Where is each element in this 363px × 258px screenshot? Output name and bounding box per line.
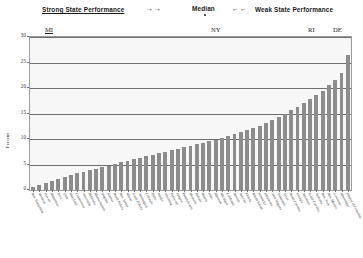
- bar[interactable]: [220, 138, 224, 190]
- bar[interactable]: [189, 146, 193, 190]
- bar[interactable]: [144, 156, 148, 190]
- bar[interactable]: [233, 134, 237, 190]
- y-axis: Percent 051015202530: [0, 30, 29, 200]
- bar[interactable]: [82, 172, 86, 190]
- y-tick-label-15: 15: [21, 110, 26, 115]
- bar[interactable]: [214, 140, 218, 190]
- bar[interactable]: [264, 123, 268, 190]
- bar[interactable]: [151, 155, 155, 190]
- y-tick-label-30: 30: [21, 33, 26, 38]
- bar[interactable]: [132, 159, 136, 190]
- bar[interactable]: [69, 175, 73, 190]
- y-tick-label-25: 25: [21, 59, 26, 64]
- bar[interactable]: [201, 143, 205, 190]
- left-arrows-icon: ←←: [232, 5, 248, 12]
- callout-mi: MI: [45, 26, 53, 33]
- bar[interactable]: [346, 55, 350, 190]
- bar[interactable]: [296, 107, 300, 190]
- bar[interactable]: [333, 80, 337, 190]
- x-axis-labels: New HampshireVermontHawaiiMinnesotaIowaU…: [29, 192, 352, 256]
- bar[interactable]: [226, 136, 230, 190]
- bar[interactable]: [138, 158, 142, 190]
- bar[interactable]: [75, 173, 79, 190]
- bar[interactable]: [270, 120, 274, 190]
- bar[interactable]: [126, 161, 130, 190]
- bars-layer: [30, 37, 351, 190]
- bar[interactable]: [170, 150, 174, 190]
- bar[interactable]: [63, 177, 67, 190]
- bar[interactable]: [258, 126, 262, 190]
- header-legend-band: Strong State Performance →→ Median ←← We…: [0, 0, 360, 22]
- callout-ny: NY: [211, 26, 221, 33]
- bar[interactable]: [113, 164, 117, 190]
- bar[interactable]: [50, 181, 54, 190]
- bar[interactable]: [176, 149, 180, 190]
- bar[interactable]: [195, 144, 199, 190]
- bar[interactable]: [107, 166, 111, 190]
- bar[interactable]: [327, 85, 331, 190]
- y-axis-title: Percent: [5, 128, 10, 154]
- bar[interactable]: [314, 95, 318, 190]
- bar[interactable]: [289, 110, 293, 190]
- bar[interactable]: [245, 130, 249, 190]
- median-label: Median: [192, 5, 215, 12]
- bar[interactable]: [308, 99, 312, 190]
- bar[interactable]: [88, 170, 92, 190]
- bar[interactable]: [251, 128, 255, 190]
- bar[interactable]: [239, 132, 243, 190]
- bar[interactable]: [277, 117, 281, 190]
- bar[interactable]: [340, 73, 344, 190]
- bar[interactable]: [94, 169, 98, 190]
- bar[interactable]: [321, 91, 325, 190]
- median-marker-icon: [204, 14, 206, 16]
- callout-de: DE: [333, 26, 342, 33]
- bar[interactable]: [163, 152, 167, 190]
- callout-ri: RI: [308, 26, 315, 33]
- bar[interactable]: [157, 153, 161, 190]
- bar[interactable]: [302, 103, 306, 190]
- bar[interactable]: [182, 147, 186, 190]
- y-tick-label-10: 10: [21, 135, 26, 140]
- y-tick-label-20: 20: [21, 84, 26, 89]
- bar[interactable]: [283, 114, 287, 191]
- right-arrows-icon: →→: [146, 5, 162, 12]
- weak-performance-label: Weak State Performance: [255, 6, 333, 13]
- bar[interactable]: [44, 183, 48, 190]
- bar[interactable]: [100, 167, 104, 190]
- bar[interactable]: [119, 162, 123, 190]
- bar[interactable]: [56, 179, 60, 190]
- strong-performance-label: Strong State Performance: [42, 6, 124, 13]
- bar[interactable]: [207, 141, 211, 190]
